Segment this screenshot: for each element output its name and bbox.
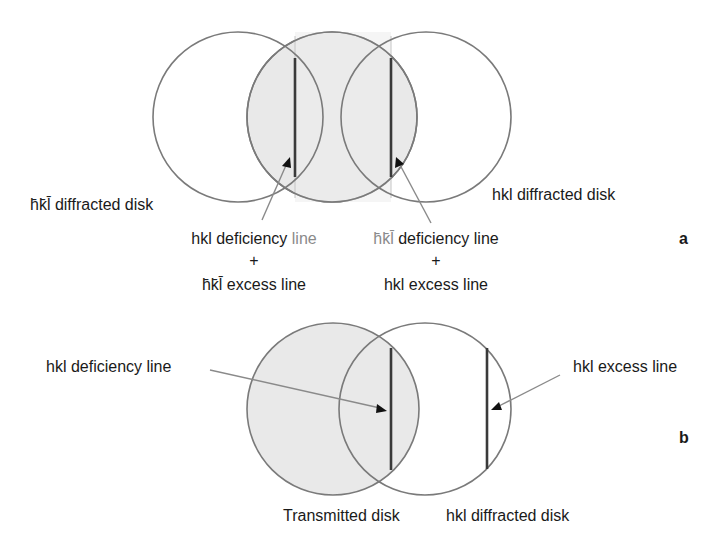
arrow-excess-b [491, 375, 560, 410]
panel-b: hkl deficiency line hkl excess line Tran… [46, 323, 689, 524]
svg-text:h̄k̄l̄ deficiency line: h̄k̄l̄ deficiency line [373, 230, 499, 247]
label-transmitted-disk: Transmitted disk [283, 507, 401, 524]
svg-text:hkl deficiency line: hkl deficiency line [191, 230, 317, 247]
label-deficiency-line-b: hkl deficiency line [46, 358, 172, 375]
panel-a: h̄k̄l̄ diffracted disk hkl diffracted di… [30, 32, 688, 293]
arrow-right-a [395, 157, 431, 223]
annotation-left-a: hkl deficiency line + h̄k̄l̄ excess line [191, 230, 317, 293]
annotation-right-line1: deficiency line [394, 230, 499, 247]
label-excess-line-b: hkl excess line [573, 358, 677, 375]
annotation-left-plus: + [249, 252, 258, 269]
annotation-right-plus: + [431, 252, 440, 269]
panel-letter-b: b [679, 429, 689, 446]
panel-letter-a: a [679, 230, 688, 247]
annotation-right-line1-faded: h̄k̄l̄ [373, 230, 395, 247]
band-shading [295, 32, 391, 202]
annotation-left-line3: h̄k̄l̄ excess line [202, 276, 306, 293]
annotation-right-a: h̄k̄l̄ deficiency line + hkl excess line [373, 230, 499, 293]
annotation-right-line3: hkl excess line [384, 276, 488, 293]
annotation-left-line1-faded: line [292, 230, 317, 247]
label-hkl-bar-diffracted-disk: h̄k̄l̄ diffracted disk [30, 196, 154, 213]
label-hkl-diffracted-disk-a: hkl diffracted disk [492, 186, 616, 203]
arrowhead-icon [491, 402, 502, 410]
label-hkl-diffracted-disk-b: hkl diffracted disk [446, 507, 570, 524]
cbed-diagram: h̄k̄l̄ diffracted disk hkl diffracted di… [0, 0, 728, 542]
transmitted-disk-b [247, 323, 419, 495]
annotation-left-line1: hkl deficiency [191, 230, 292, 247]
